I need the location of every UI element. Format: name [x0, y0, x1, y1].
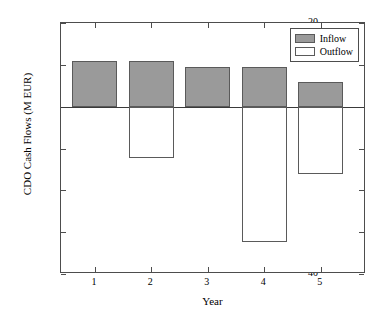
bar-inflow-year-5 [298, 82, 343, 107]
legend-item-outflow: Outflow [295, 45, 353, 58]
bar-outflow-year-5 [298, 107, 343, 175]
legend-label: Outflow [320, 46, 353, 57]
y-tick-mark-right [359, 274, 364, 275]
bar-inflow-year-4 [242, 67, 287, 107]
x-tick-label: 4 [251, 277, 275, 287]
bar-outflow-year-2 [129, 107, 174, 158]
x-tick-label: 5 [308, 277, 332, 287]
bar-inflow-year-1 [72, 61, 117, 107]
x-axis-label: Year [60, 295, 365, 307]
chart-legend: InflowOutflow [290, 28, 359, 62]
y-axis-label: CDO Cash Flows (M EUR) [21, 39, 33, 229]
y-tick-mark [61, 274, 66, 275]
x-tick-label: 2 [138, 277, 162, 287]
chart-figure: 20100−10−20−30−40 CDO Cash Flows (M EUR)… [0, 0, 382, 320]
legend-swatch-outflow-icon [295, 47, 315, 56]
plot-area: InflowOutflow [60, 22, 365, 273]
legend-label: Inflow [320, 33, 347, 44]
bar-inflow-year-3 [185, 67, 230, 107]
legend-item-inflow: Inflow [295, 32, 353, 45]
x-tick-label: 3 [195, 277, 219, 287]
x-tick-label: 1 [82, 277, 106, 287]
legend-swatch-inflow-icon [295, 34, 315, 43]
bar-inflow-year-2 [129, 61, 174, 107]
bar-outflow-year-4 [242, 107, 287, 242]
